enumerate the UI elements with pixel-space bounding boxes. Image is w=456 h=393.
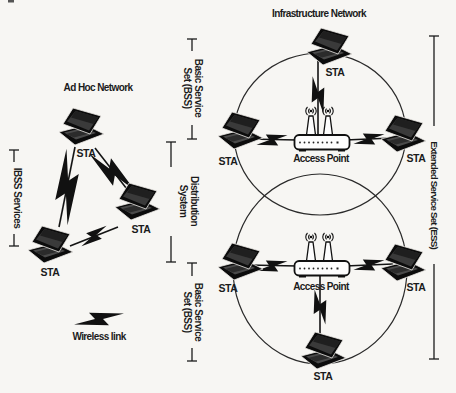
laptop-icon-adhoc-left [28,226,73,263]
network-topology-diagram: Ad Hoc Network Infrastructure Network ST… [0,0,456,393]
sta-label-bss1-top: STA [325,66,345,78]
bss-top-coverage-circle [234,53,406,215]
bracket-bss-top: Basic Service Set (BSS) [182,39,204,139]
sta-label-adhoc-left: STA [40,266,60,278]
bss-bottom-label-line1: Basic Service [193,283,204,342]
bracket-distribution-system: Distribution System [166,142,200,262]
distribution-system-label-line1: Distribution [189,176,200,226]
laptop-icon-adhoc-top [59,108,104,145]
cropped-text-fragment [8,0,14,3]
lightning-bolt-icon [78,225,111,247]
lightning-bolt-icon [51,148,83,225]
sta-label-bss2-bottom: STA [313,370,333,382]
sta-label-bss2-left: STA [218,282,238,294]
laptop-icon-bss1-top [307,28,352,65]
bss-top-label-line2: Set (BSS) [182,67,193,108]
sta-label-bss2-right: STA [406,281,426,293]
sta-label-adhoc-top: STA [76,147,96,159]
laptop-icon-bss2-left [218,243,263,280]
access-point-icon-top [295,107,350,152]
bracket-ess: Extended Service Set (ESS) [429,36,440,359]
laptop-icon-bss1-right [381,115,426,152]
bracket-ibss-services: IBSS Services [9,150,23,246]
sta-label-bss1-left: STA [218,155,238,167]
legend-wireless-link: Wireless link [72,313,126,342]
sta-label-bss1-right: STA [406,152,426,164]
laptop-icon-bss1-left [218,112,263,149]
bss-bottom-label-line2: Set (BSS) [182,291,193,332]
laptop-icon-bss2-right [381,244,426,281]
bracket-bss-bottom: Basic Service Set (BSS) [182,263,204,361]
distribution-system-label-line2: System [178,185,189,218]
access-point-label-bottom: Access Point [293,281,350,292]
access-point-icon-bottom [295,233,350,278]
infrastructure-network-title: Infrastructure Network [272,8,367,19]
wireless-links [51,60,393,338]
sta-label-adhoc-right: STA [131,223,151,235]
ad-hoc-network-title: Ad Hoc Network [64,82,134,93]
wireless-link-legend-label: Wireless link [72,331,126,342]
diagram-canvas: Ad Hoc Network Infrastructure Network ST… [0,0,456,393]
ess-label: Extended Service Set (ESS) [429,141,440,249]
laptop-icon-adhoc-right [115,183,160,220]
ibss-services-label: IBSS Services [12,168,23,230]
bss-top-label-line1: Basic Service [193,59,204,118]
lightning-bolt-icon [74,313,124,326]
access-point-label-top: Access Point [293,153,350,164]
